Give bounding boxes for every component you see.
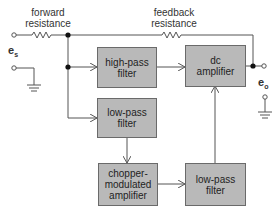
junction-dot — [65, 32, 70, 37]
output-voltage-label: eo — [258, 76, 268, 90]
forward-resistor-icon — [32, 32, 51, 38]
feedback-resistor-icon — [162, 32, 181, 38]
forward-resistance-label: forward resistance — [14, 7, 82, 29]
low-pass-filter-output-block: low-pass filter — [185, 163, 246, 206]
junction-dot — [65, 64, 70, 69]
output-terminal-bottom — [263, 95, 267, 99]
high-pass-filter-block: high-pass filter — [97, 47, 157, 88]
input-terminal-top — [12, 33, 16, 37]
output-terminal-top — [262, 64, 266, 68]
low-pass-filter-input-block: low-pass filter — [97, 98, 157, 138]
junction-dot — [250, 63, 255, 68]
input-terminal-bottom — [12, 66, 16, 70]
input-voltage-label: es — [8, 44, 18, 58]
dc-amplifier-block: dc amplifier — [185, 45, 246, 87]
feedback-resistance-label: feedback resistance — [140, 7, 208, 29]
chopper-modulated-amplifier-block: chopper- modulated amplifier — [98, 163, 158, 206]
